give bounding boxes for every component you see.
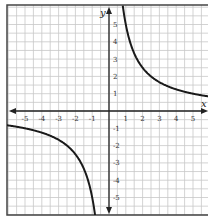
y-axis-up-arrow-icon [106,7,112,14]
y-tick-label: -4 [113,177,120,185]
y-tick-label: -2 [113,142,120,150]
x-tick-label: -2 [72,115,79,123]
y-tick-label: 2 [113,73,117,81]
y-tick-label: -5 [113,194,120,202]
axes: xy [9,7,208,214]
y-axis-label: y [99,7,106,18]
x-tick-label: -5 [22,115,29,123]
x-tick-label: 3 [157,115,161,123]
x-axis-label: x [201,98,207,109]
y-tick-label: -1 [113,125,120,133]
y-axis-down-arrow-icon [106,207,112,214]
x-axis-left-arrow-icon [9,108,16,114]
curve-branch-positive [123,6,208,97]
x-tick-label: -1 [89,115,96,123]
y-tick-label: 4 [113,38,118,46]
y-tick-label: 5 [113,21,117,29]
frame-border [7,5,208,215]
y-tick-label: -3 [113,159,120,167]
x-tick-label: 2 [140,115,144,123]
hyperbola-graph: xy -5-4-3-2-11234554321-1-2-3-4-5 [0,0,208,219]
x-tick-label: -4 [38,115,45,123]
y-tick-label: 1 [113,90,117,98]
y-tick-label: 3 [113,56,117,64]
x-tick-label: 4 [174,115,179,123]
grid-lines [7,5,208,215]
x-tick-label: 1 [124,115,128,123]
x-tick-label: 5 [191,115,195,123]
curve-branch-negative [7,125,96,216]
graph-frame [7,5,208,215]
x-tick-label: -3 [55,115,62,123]
